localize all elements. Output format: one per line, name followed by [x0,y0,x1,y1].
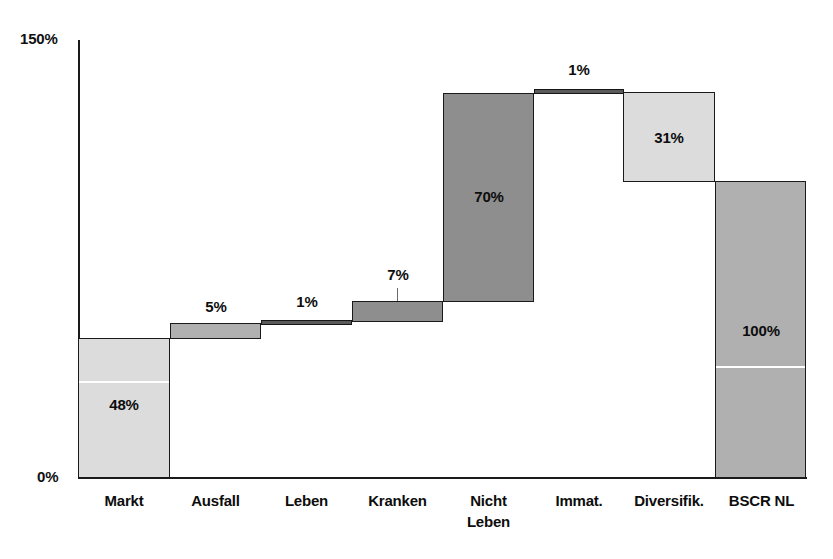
x-axis-label-bscr-nl: BSCR NL [714,490,809,511]
bar-diversifik-value: 31% [624,129,714,146]
waterfall-chart: 150% 0% 48% 5% 1% 7% 70% 1% 31% 100% Mar… [0,0,833,559]
bar-markt-value: 48% [79,396,169,413]
x-axis-line [78,477,807,479]
bar-kranken-leader-line [397,288,398,301]
x-axis-label-immat: Immat. [534,490,624,511]
bar-nicht-leben-value: 70% [444,188,534,205]
y-axis-tick-150: 150% [20,30,58,47]
bar-leben [261,320,352,325]
bar-immat [534,89,624,94]
bar-kranken [352,301,443,322]
x-axis-label-nicht-leben: Nicht Leben [443,490,534,532]
x-axis-label-ausfall: Ausfall [170,490,261,511]
bar-leben-value: 1% [262,293,352,310]
bar-ausfall-value: 5% [171,298,261,315]
y-axis-tick-0: 0% [37,468,58,485]
bar-ausfall [170,323,261,339]
bar-bscr-nl-inner-line [716,366,805,368]
x-axis-label-kranken: Kranken [352,490,443,511]
bar-kranken-value: 7% [353,266,443,283]
bar-markt-inner-line [79,381,169,383]
x-axis-label-markt: Markt [78,490,170,511]
x-axis-label-leben: Leben [261,490,352,511]
bar-bscr-nl-value: 100% [716,322,806,339]
bar-immat-value: 1% [534,61,624,78]
x-axis-label-diversifik: Diversifik. [620,490,718,511]
